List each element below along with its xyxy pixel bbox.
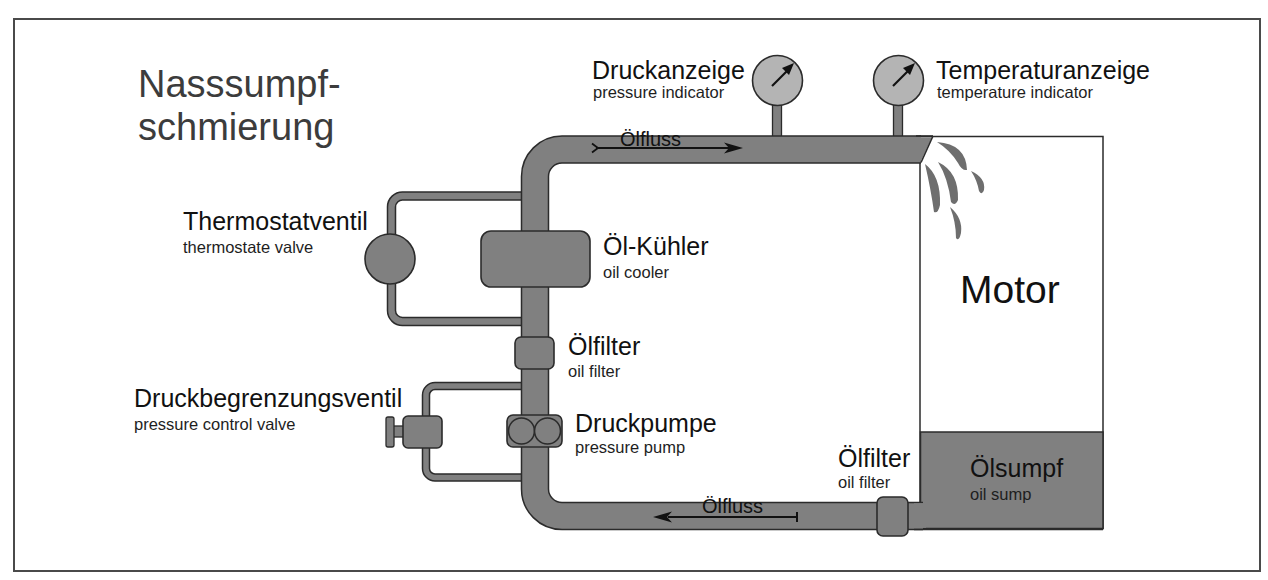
oil-filter-sump-label: Ölfilter — [838, 446, 910, 471]
pressure-control-valve-label: Druckbegrenzungsventil — [134, 386, 402, 411]
pressure-pump-icon — [507, 415, 562, 447]
pressure-control-valve-icon — [386, 416, 442, 448]
lubrication-diagram: Nasssumpf- schmierung Druckanzeige press… — [0, 0, 1268, 580]
temperature-indicator-label: Temperaturanzeige — [936, 58, 1150, 83]
motor-label: Motor — [960, 270, 1060, 309]
oil-cooler-icon — [481, 231, 590, 287]
pressure-gauge-icon — [753, 56, 803, 106]
oil-filter-main-icon — [515, 337, 554, 369]
temperature-indicator-sublabel: temperature indicator — [937, 84, 1093, 101]
oil-filter-main-label: Ölfilter — [568, 334, 640, 359]
oil-filter-main-sublabel: oil filter — [568, 363, 620, 380]
pressure-pump-label: Druckpumpe — [575, 411, 717, 436]
thermostat-valve-label: Thermostatventil — [183, 209, 368, 234]
diagram-title-line1: Nasssumpf- — [138, 65, 341, 103]
oil-filter-sump-sublabel: oil filter — [838, 474, 890, 491]
oil-cooler-label: Öl-Kühler — [603, 234, 709, 259]
thermostat-valve-sublabel: thermostate valve — [183, 239, 313, 256]
oil-sump-label: Ölsumpf — [970, 456, 1063, 481]
thermostat-valve-icon — [365, 234, 415, 284]
pressure-gauge-stem — [773, 104, 782, 138]
oil-filter-sump-icon — [877, 497, 908, 536]
oil-sump-sublabel: oil sump — [970, 486, 1031, 503]
temperature-gauge-icon — [874, 56, 924, 106]
oil-cooler-sublabel: oil cooler — [603, 264, 669, 281]
temperature-gauge-stem — [894, 104, 903, 138]
pressure-pump-sublabel: pressure pump — [575, 439, 685, 456]
diagram-title-line2: schmierung — [138, 108, 334, 146]
pipe-sump-merge — [914, 503, 926, 528]
pressure-control-valve-sublabel: pressure control valve — [134, 416, 295, 433]
pressure-indicator-label: Druckanzeige — [592, 58, 745, 83]
flow-label-top: Ölfluss — [620, 129, 681, 149]
flow-label-bottom: Ölfluss — [702, 496, 763, 516]
pressure-indicator-sublabel: pressure indicator — [593, 84, 724, 101]
